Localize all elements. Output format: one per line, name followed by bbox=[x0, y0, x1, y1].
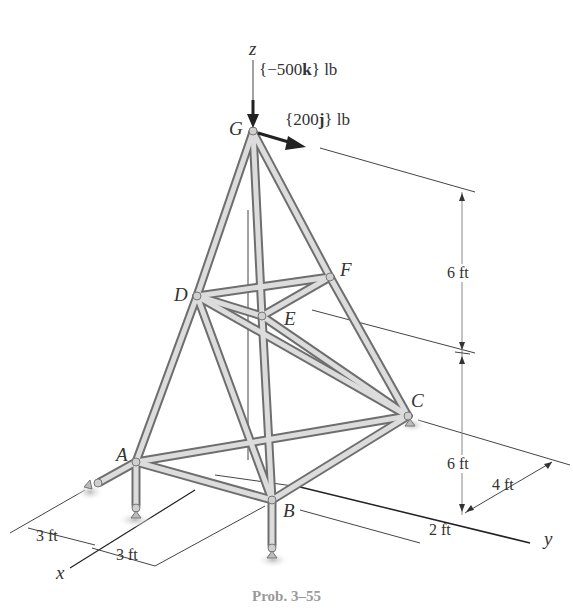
dim-upper-height: 6 ft bbox=[447, 264, 469, 282]
y-axis-label: y bbox=[544, 528, 552, 550]
x-axis-label: x bbox=[56, 562, 64, 584]
joint-label-f: F bbox=[340, 259, 352, 281]
dim-lower-height: 6 ft bbox=[447, 455, 469, 473]
dim-x-right: 3 ft bbox=[116, 546, 138, 564]
joint-label-b: B bbox=[283, 500, 295, 522]
joint-label-c: C bbox=[411, 390, 424, 412]
truss-diagram: z y x G D F E C A B {−500k} lb {200j} lb… bbox=[0, 0, 573, 613]
dim-x-left: 3 ft bbox=[36, 527, 58, 545]
truss-members bbox=[100, 132, 408, 545]
joint-label-a: A bbox=[116, 444, 128, 466]
figure-caption: Prob. 3–55 bbox=[0, 588, 573, 605]
horizontal-load-label: {200j} lb bbox=[285, 110, 350, 130]
z-axis-label: z bbox=[249, 38, 256, 60]
joint-label-g: G bbox=[229, 118, 243, 140]
joint-label-e: E bbox=[284, 308, 296, 330]
dim-y-offset-b: 2 ft bbox=[429, 521, 451, 539]
vertical-load-label: {−500k} lb bbox=[259, 60, 337, 80]
joint-label-d: D bbox=[174, 284, 188, 306]
dim-y-offset-c: 4 ft bbox=[492, 476, 514, 494]
